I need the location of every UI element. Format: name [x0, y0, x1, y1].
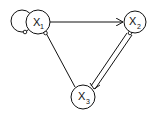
edge-x1-x3: [44, 31, 75, 87]
node-x2-subscript: 2: [137, 23, 141, 30]
node-x2-label: X: [129, 15, 137, 27]
graph-diagram: X 1 X 2 X 3: [0, 0, 159, 116]
loop-tail-circle-icon: [23, 30, 27, 34]
node-x3: X 3: [71, 85, 95, 109]
node-x3-label: X: [78, 90, 86, 102]
node-x2: X 2: [124, 11, 146, 33]
node-x3-subscript: 3: [86, 98, 90, 105]
node-x1-subscript: 1: [40, 23, 44, 30]
node-x1: X 1: [26, 10, 50, 34]
edge-x2-x3: [90, 31, 132, 89]
